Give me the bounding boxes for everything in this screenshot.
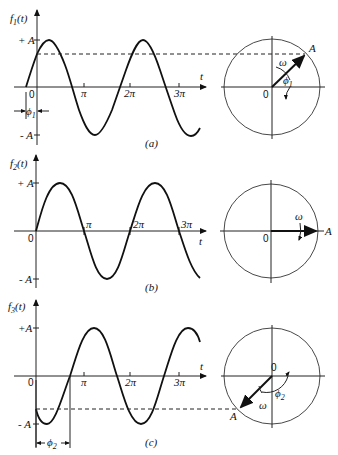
tick-label-3pi: 3π [173,376,186,388]
panel-a: f1(t) + A - A 0 π 2π 3π t ϕ1 (a) A ω 0 ϕ… [10,10,325,150]
omega-label: ω [259,399,267,411]
x-axis-label: t [200,70,204,82]
svg-text:ϕ1: ϕ1 [26,105,36,120]
x-axis-label: t [200,360,204,372]
caption-a: (a) [145,137,158,150]
label-minus-a: - A [19,273,32,285]
caption-c: (c) [145,436,158,449]
tick-label-pi: π [81,376,87,388]
x-axis-label: t [199,235,203,247]
tick-label-2pi: 2π [125,376,137,388]
caption-b: (b) [145,281,158,294]
panel-b: f2(t) + A - A 0 π 2π 3π t (b) ω A 0 [10,155,332,294]
origin-label: 0 [28,233,34,244]
tick-label-3pi: 3π [180,218,193,230]
svg-text:f2(t): f2(t) [10,157,28,172]
svg-text:ϕ2: ϕ2 [47,436,57,451]
label-minus-a: - A [20,129,33,141]
circle-origin-label: 0 [263,233,269,244]
origin-label: 0 [29,89,35,100]
tick-label-3pi: 3π [173,87,186,99]
label-plus-a: + A [18,34,35,46]
label-minus-a: - A [18,418,31,430]
phasor-arrow [241,376,272,407]
circle-origin-label: 0 [271,362,277,373]
panel-c: f3(t) +A - A 0 π 2π 3π t ϕ2 (c) A ω 0 ϕ2 [8,300,325,451]
circle-origin-label: 0 [263,89,269,100]
svg-text:f3(t): f3(t) [8,300,26,315]
tick-label-2pi: 2π [133,218,145,230]
svg-text:f1(t): f1(t) [10,12,28,27]
tick-label-pi: π [81,87,87,99]
origin-label: 0 [28,377,34,388]
tick-label-2pi: 2π [124,87,136,99]
label-plus-a: +A [18,322,32,334]
phasor-figure: f1(t) + A - A 0 π 2π 3π t ϕ1 (a) A ω 0 ϕ… [0,0,338,455]
tick-label-pi: π [86,218,92,230]
svg-text:ϕ2: ϕ2 [275,387,285,402]
phasor-label: A [324,225,332,237]
omega-label: ω [295,210,303,222]
label-plus-a: + A [17,177,34,189]
omega-label: ω [279,56,287,68]
phasor-label: A [308,42,316,54]
phasor-label: A [229,410,237,422]
